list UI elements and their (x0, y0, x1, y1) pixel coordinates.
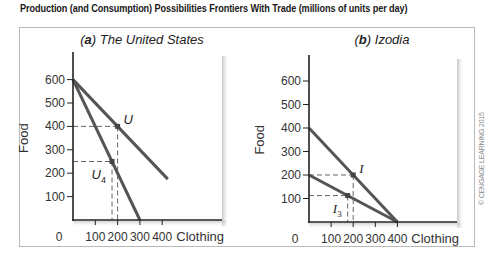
x-tick-label: 100 (85, 230, 105, 244)
panel-a-letter-bold: a (85, 32, 92, 47)
y-axis-label: Food (16, 123, 31, 153)
panel-a-plot: 1002003004005006001002003004000ClothingF… (16, 52, 229, 244)
y-tick-label: 200 (45, 166, 65, 180)
plot-area (309, 55, 457, 222)
plot-shadow (457, 59, 464, 228)
copyright-credit: © CENGAGE LEARNING 2015 (478, 112, 485, 205)
x-tick-label: 200 (108, 230, 128, 244)
x-tick-label: 200 (343, 232, 363, 246)
point-marker (115, 124, 120, 129)
point-label: I (358, 161, 364, 176)
y-tick-label: 500 (281, 98, 301, 112)
plot-shadow (222, 56, 229, 226)
x-tick-label: 300 (130, 230, 150, 244)
panel-b-plot: 1002003004005006001002003004000ClothingF… (252, 55, 464, 246)
point-marker (345, 193, 350, 198)
plot-shadow-bottom (73, 221, 226, 227)
panel-united-states: (a) The United States 100200300400500600… (16, 32, 229, 244)
y-tick-label: 100 (45, 190, 65, 204)
y-tick-label: 500 (45, 96, 65, 110)
point-marker (110, 159, 115, 164)
x-tick-label: 400 (152, 230, 172, 244)
y-tick-label: 600 (45, 73, 65, 87)
point-label: U (124, 112, 134, 127)
chart-canvas: (a) The United States 100200300400500600… (0, 0, 498, 264)
y-tick-label: 300 (45, 143, 65, 157)
point-marker (351, 173, 356, 178)
x-tick-label: 100 (321, 232, 341, 246)
panel-a-title-text: The United States (100, 32, 205, 47)
panel-a-letter-close: ) (90, 32, 100, 47)
y-tick-label: 400 (45, 119, 65, 133)
panel-b-letter-bold: b (359, 32, 367, 47)
plot-area (73, 52, 222, 220)
y-tick-label: 400 (281, 121, 301, 135)
panel-b-title: (b) Izodia (355, 32, 410, 47)
y-tick-label: 200 (281, 168, 301, 182)
plot-shadow-bottom (309, 223, 461, 229)
y-axis-label: Food (252, 125, 267, 155)
x-axis-label: Clothing (411, 231, 459, 246)
x-tick-label: 400 (387, 232, 407, 246)
x-tick-label: 300 (365, 232, 385, 246)
origin-label: 0 (56, 230, 63, 244)
y-tick-label: 300 (281, 145, 301, 159)
origin-label: 0 (292, 232, 299, 246)
panel-izodia: (b) Izodia 10020030040050060010020030040… (252, 32, 464, 246)
y-tick-label: 600 (281, 74, 301, 88)
panel-b-letter-close: ) (365, 32, 375, 47)
panel-a-title: (a) The United States (80, 32, 204, 47)
panel-b-title-text: Izodia (375, 32, 410, 47)
y-tick-label: 100 (281, 192, 301, 206)
x-axis-label: Clothing (176, 229, 224, 244)
